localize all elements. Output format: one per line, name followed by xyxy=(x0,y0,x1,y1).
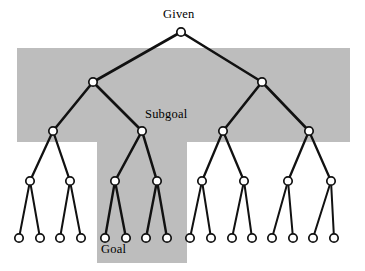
tree-node-n3-6 xyxy=(284,177,292,185)
tree-node-n4-15 xyxy=(330,234,338,242)
tree-node-n3-7 xyxy=(327,177,335,185)
tree-node-n4-11 xyxy=(248,234,256,242)
tree-node-n4-6 xyxy=(142,234,150,242)
tree-node-n2-1 xyxy=(138,127,146,135)
tree-node-n4-12 xyxy=(268,234,276,242)
goal-label: Goal xyxy=(101,243,126,256)
tree-node-n4-0 xyxy=(15,234,23,242)
tree-node-n2-3 xyxy=(305,127,313,135)
tree-node-n4-10 xyxy=(228,234,236,242)
tree-node-n3-2 xyxy=(111,177,119,185)
tree-node-n4-8 xyxy=(186,234,194,242)
tree-edge xyxy=(30,181,40,238)
tree-node-n4-7 xyxy=(163,234,171,242)
tree-node-n4-3 xyxy=(77,234,85,242)
highlight-region-upper-band xyxy=(17,48,350,142)
tree-node-n4-2 xyxy=(56,234,64,242)
given-label: Given xyxy=(163,8,195,21)
tree-edge xyxy=(272,181,288,238)
tree-node-n3-1 xyxy=(66,177,74,185)
tree-node-n3-0 xyxy=(26,177,34,185)
tree-edge xyxy=(70,181,81,238)
tree-edge xyxy=(244,181,252,238)
tree-edge xyxy=(60,181,70,238)
tree-edge xyxy=(19,181,30,238)
tree-edge xyxy=(288,181,293,238)
tree-edge xyxy=(331,181,334,238)
tree-edge xyxy=(313,181,331,238)
tree-node-n4-9 xyxy=(207,234,215,242)
tree-node-n3-4 xyxy=(198,177,206,185)
search-tree-figure: Given Subgoal Goal xyxy=(0,0,365,271)
highlight-regions xyxy=(17,48,350,263)
tree-edge xyxy=(232,181,244,238)
tree-node-n3-5 xyxy=(240,177,248,185)
tree-node-n4-14 xyxy=(309,234,317,242)
subgoal-label: Subgoal xyxy=(145,108,187,121)
tree-node-n4-13 xyxy=(289,234,297,242)
tree-node-n4-4 xyxy=(101,234,109,242)
tree-node-n3-3 xyxy=(153,177,161,185)
tree-node-n2-0 xyxy=(49,127,57,135)
tree-graphic xyxy=(0,0,365,271)
tree-edge xyxy=(202,181,211,238)
tree-node-n0 xyxy=(177,28,185,36)
tree-node-n4-1 xyxy=(36,234,44,242)
tree-edge xyxy=(190,181,202,238)
tree-node-n1-0 xyxy=(89,78,97,86)
tree-node-n1-1 xyxy=(258,78,266,86)
tree-node-n4-5 xyxy=(122,234,130,242)
tree-node-n2-2 xyxy=(219,127,227,135)
